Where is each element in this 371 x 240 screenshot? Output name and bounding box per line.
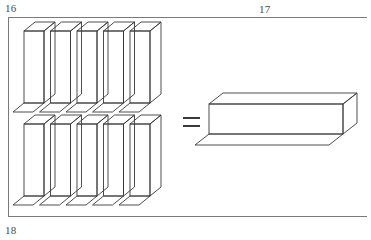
tall-prism: [13, 22, 55, 112]
prism-right-face: [71, 115, 82, 196]
prism-front-face: [24, 31, 44, 103]
equals-sign: [183, 117, 200, 127]
prism-right-face: [150, 22, 161, 103]
tall-prism: [93, 115, 135, 205]
prism-front-face: [104, 31, 124, 103]
prism-front-face: [130, 31, 150, 103]
prism-right-face: [44, 115, 55, 196]
tall-prism: [66, 115, 108, 205]
prism-front-face: [130, 124, 150, 196]
prism-bottom-face: [119, 103, 150, 112]
prism-front-face: [51, 124, 71, 196]
long-horizontal-prism: [195, 93, 357, 145]
prism-bottom-face: [13, 196, 44, 205]
prism-bottom-face: [40, 196, 71, 205]
math-figure-canvas: [0, 0, 371, 240]
tall-prism: [13, 115, 55, 205]
tall-prism: [93, 22, 135, 112]
prism-bottom-face: [66, 103, 97, 112]
equals-bar-top: [183, 117, 200, 119]
prism-right-face: [44, 22, 55, 103]
tall-prism: [119, 22, 161, 112]
prism-right-face: [124, 22, 135, 103]
tall-prism: [40, 22, 82, 112]
tall-prism: [119, 115, 161, 205]
prism-front-face: [51, 31, 71, 103]
prism-bottom-face: [93, 103, 124, 112]
tall-prism: [66, 22, 108, 112]
prism-right-face: [124, 115, 135, 196]
prism-front-face: [77, 124, 97, 196]
prism-right-face: [71, 22, 82, 103]
equals-bar-bottom: [183, 125, 200, 127]
prism-right-face: [97, 115, 108, 196]
prism-bottom-face: [66, 196, 97, 205]
tall-prisms-group: [13, 22, 161, 205]
prism-right-face: [97, 22, 108, 103]
prism-front-face: [104, 124, 124, 196]
prism-front-face: [77, 31, 97, 103]
prism-top-face: [24, 115, 55, 124]
prism-right-face: [150, 115, 161, 196]
long-prism-bottom-face: [195, 134, 343, 145]
long-prism-top-face: [209, 93, 357, 104]
prism-bottom-face: [40, 103, 71, 112]
prism-front-face: [24, 124, 44, 196]
tall-prism: [40, 115, 82, 205]
prism-bottom-face: [13, 103, 44, 112]
long-prism-front-face: [209, 104, 343, 134]
figure-page: 16 17 18: [0, 0, 371, 240]
prism-bottom-face: [93, 196, 124, 205]
long-prism-right-face: [343, 93, 357, 134]
prism-top-face: [24, 22, 55, 31]
prism-bottom-face: [119, 196, 150, 205]
